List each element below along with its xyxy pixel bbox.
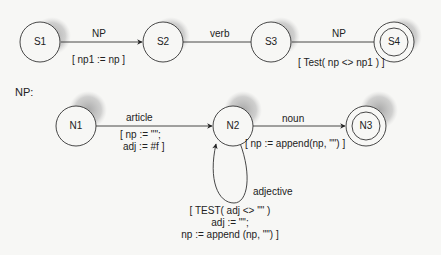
edge-action-article-line1: [ np := "";: [120, 129, 161, 141]
edge-n2-loop-adjective: [213, 143, 247, 203]
node-label-n2: N2: [213, 120, 253, 132]
edge-action-article-line2: adj := #f ]: [123, 141, 164, 153]
edge-label-np-2: NP: [332, 28, 346, 40]
edge-action-adjective-line3: np := append (np, "") ]: [165, 229, 295, 241]
edge-label-article: article: [126, 112, 153, 124]
edge-label-noun: noun: [282, 113, 304, 125]
edge-label-np-1: NP: [92, 28, 106, 40]
edge-action-adjective-line1: [ TEST( adj <> "" ): [175, 205, 285, 217]
node-label-n3: N3: [346, 120, 386, 132]
edge-action-test-np: [ Test( np <> np1 ) ]: [298, 57, 385, 69]
node-label-s4: S4: [374, 36, 414, 48]
edge-action-adjective-line2: adj := "";: [175, 217, 285, 229]
node-label-s1: S1: [20, 36, 60, 48]
edge-label-verb: verb: [210, 28, 229, 40]
edge-action-noun: [ np := append(np, "") ]: [245, 138, 345, 150]
node-label-s3: S3: [251, 36, 291, 48]
edge-label-adjective: adjective: [253, 186, 292, 198]
node-label-n1: N1: [56, 120, 96, 132]
node-label-s2: S2: [143, 36, 183, 48]
edge-action-np1-assign: [ np1 := np ]: [72, 54, 125, 66]
np-network-title: NP:: [15, 86, 33, 98]
